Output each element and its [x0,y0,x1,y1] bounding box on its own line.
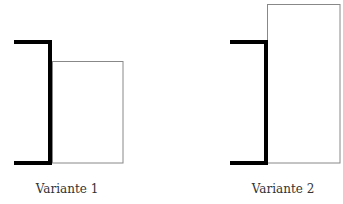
variant-1-bracket [14,42,50,163]
variant-1-label: Variante 1 [36,182,99,196]
variant-2-bracket [230,42,266,163]
variant-1 [14,42,123,163]
variant-1-box [53,62,124,164]
variants-diagram [0,0,343,204]
variant-2 [230,5,340,164]
variant-2-box [268,5,341,164]
variant-2-label: Variante 2 [252,182,315,196]
